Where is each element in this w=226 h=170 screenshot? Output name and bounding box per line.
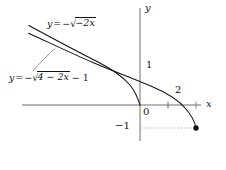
eq-lower-radical: √4 − 2x [32, 72, 70, 83]
tick-label-zero: 0 [143, 107, 149, 117]
figure-canvas: y x 1 0 2 −1 y = −√−2x y = −√4 − 2x − 1 [0, 0, 226, 170]
eq-lower-minus: − [24, 72, 32, 83]
eq-lower-trailing: − 1 [72, 72, 89, 83]
curve-upper [29, 26, 140, 106]
leader-line [33, 49, 55, 72]
plot-area [0, 0, 226, 170]
equation-label-lower-curve: y = −√4 − 2x − 1 [9, 72, 89, 83]
x-axis-label: x [206, 99, 212, 109]
eq-upper-minus: − [62, 18, 70, 29]
eq-lower-radicand: 4 − 2x [37, 71, 69, 82]
tick-label-negative-one: −1 [115, 121, 130, 131]
equation-label-upper-curve: y = −√−2x [47, 18, 96, 29]
endpoint-dot [193, 125, 198, 130]
eq-upper-radicand: −2x [75, 17, 95, 28]
tick-label-two: 2 [175, 85, 181, 95]
eq-upper-radical: √−2x [70, 18, 96, 29]
tick-label-one: 1 [146, 60, 152, 70]
y-axis-label: y [145, 3, 151, 13]
